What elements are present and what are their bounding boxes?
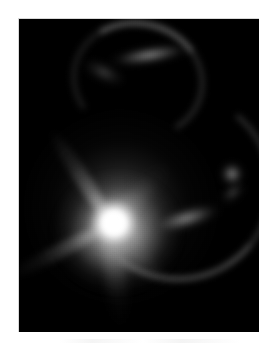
margin-artifact — [60, 339, 240, 343]
pixel-noise-overlay — [19, 19, 259, 332]
lensed-arc-right-bright-knot — [145, 193, 236, 240]
outer-halo-glow — [21, 107, 221, 307]
spike-upper-left — [45, 126, 117, 226]
sky-frame[interactable] — [18, 18, 259, 332]
central-core-glow — [85, 195, 143, 251]
lensed-arc-top-bright-knot — [104, 32, 195, 71]
lensed-arc-top-left-tail — [73, 51, 129, 92]
lensed-arc-right — [74, 84, 259, 291]
lensed-arc-top — [60, 18, 216, 152]
spike-lower — [101, 230, 131, 328]
spike-lower-right — [107, 223, 170, 287]
central-core-peak — [99, 209, 129, 237]
spike-lower-left — [18, 220, 112, 283]
spike-upper-right — [105, 158, 175, 231]
lensed-arc-right-tip — [213, 168, 256, 209]
compact-companion-source — [217, 159, 247, 189]
astronomical-image-viewer — [0, 0, 277, 350]
inner-halo-glow — [53, 167, 187, 293]
